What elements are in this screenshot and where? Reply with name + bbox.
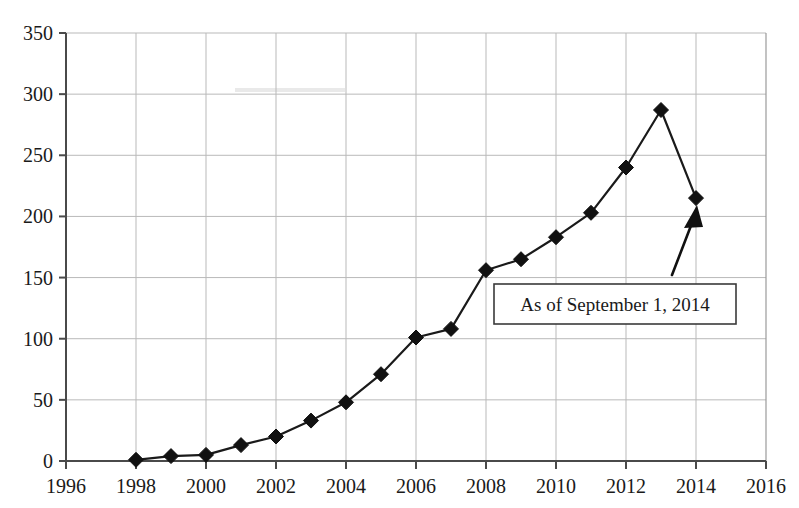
x-tick-label: 2012 — [606, 475, 646, 497]
y-tick-label: 200 — [23, 205, 53, 227]
x-tick-label: 2006 — [396, 475, 436, 497]
x-tick-label: 2008 — [466, 475, 506, 497]
y-tick-label: 100 — [23, 328, 53, 350]
y-tick-label: 350 — [23, 22, 53, 44]
line-chart: 050100150200250300350 199619982000200220… — [0, 0, 799, 508]
x-tick-label: 2000 — [186, 475, 226, 497]
y-tick-label: 250 — [23, 144, 53, 166]
chart-canvas: 050100150200250300350 199619982000200220… — [0, 0, 799, 508]
annotation-label: As of September 1, 2014 — [520, 294, 710, 315]
y-tick-label: 150 — [23, 267, 53, 289]
scan-artifact — [235, 88, 345, 92]
x-tick-label: 2014 — [676, 475, 716, 497]
x-tick-label: 1998 — [116, 475, 156, 497]
y-tick-label: 0 — [43, 450, 53, 472]
x-tick-label: 2016 — [746, 475, 786, 497]
x-tick-label: 2004 — [326, 475, 366, 497]
y-tick-label: 300 — [23, 83, 53, 105]
x-tick-label: 2010 — [536, 475, 576, 497]
annotation-callout: As of September 1, 2014 — [494, 284, 736, 324]
x-tick-label: 1996 — [46, 475, 86, 497]
x-tick-label: 2002 — [256, 475, 296, 497]
y-tick-label: 50 — [33, 389, 53, 411]
